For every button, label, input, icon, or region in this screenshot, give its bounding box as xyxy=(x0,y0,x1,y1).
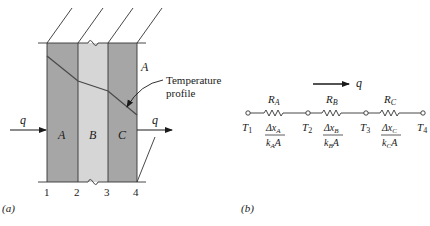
resistor-label-rb: RB xyxy=(325,93,338,107)
layer-b-label: B xyxy=(89,128,97,142)
formula-a: ΔxA kAA xyxy=(265,122,285,150)
node-label-t3: T3 xyxy=(360,121,370,135)
layer-c xyxy=(108,43,137,182)
panel-b-label: (b) xyxy=(241,202,254,215)
svg-text:kAA: kAA xyxy=(266,137,282,150)
composite-wall-figure: q q A Temperature profile A B C 1 2 3 4 … xyxy=(0,0,430,226)
interface-number-1: 1 xyxy=(44,186,50,198)
layer-c-label: C xyxy=(118,128,127,142)
resistor-label-rc: RC xyxy=(383,93,397,107)
node-t1 xyxy=(246,111,250,115)
svg-text:ΔxC: ΔxC xyxy=(381,122,397,135)
interface-number-3: 3 xyxy=(104,186,110,198)
svg-text:kBA: kBA xyxy=(324,137,340,150)
node-t3 xyxy=(364,111,368,115)
area-label: A xyxy=(140,60,149,74)
svg-text:ΔxB: ΔxB xyxy=(323,122,339,135)
circuit-flow-label: q xyxy=(356,76,362,90)
node-t4 xyxy=(421,111,425,115)
formula-c: ΔxC kCA xyxy=(381,122,401,150)
profile-label-line2: profile xyxy=(166,87,195,99)
composite-wall-diagram: q q A Temperature profile A B C 1 2 3 4 … xyxy=(2,8,222,215)
profile-label-line1: Temperature xyxy=(166,74,222,86)
resistor-label-ra: RA xyxy=(267,93,280,107)
layer-a xyxy=(47,43,78,182)
node-t2 xyxy=(306,111,310,115)
heat-flow-out-label: q xyxy=(152,113,158,127)
layer-a-label: A xyxy=(57,128,66,142)
resistor-c xyxy=(380,110,399,116)
formula-b: ΔxB kBA xyxy=(323,122,343,150)
panel-a-label: (a) xyxy=(2,202,15,215)
svg-text:ΔxA: ΔxA xyxy=(265,122,281,135)
node-label-t4: T4 xyxy=(417,121,427,135)
resistor-b xyxy=(322,110,341,116)
resistor-a xyxy=(264,110,283,116)
svg-text:kCA: kCA xyxy=(382,137,398,150)
interface-number-4: 4 xyxy=(133,186,139,198)
circuit-wires xyxy=(250,110,421,116)
thermal-circuit-diagram: q T1 T2 T3 T4 RA RB RC xyxy=(241,76,427,215)
node-label-t1: T1 xyxy=(242,121,252,135)
heat-flow-in-label: q xyxy=(20,113,26,127)
layer-b xyxy=(78,43,108,182)
interface-number-2: 2 xyxy=(74,186,80,198)
node-label-t2: T2 xyxy=(302,121,312,135)
